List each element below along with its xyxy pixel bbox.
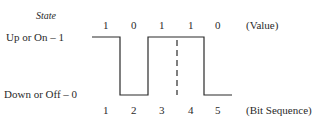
signal-line <box>92 37 232 95</box>
waveform <box>0 0 330 123</box>
